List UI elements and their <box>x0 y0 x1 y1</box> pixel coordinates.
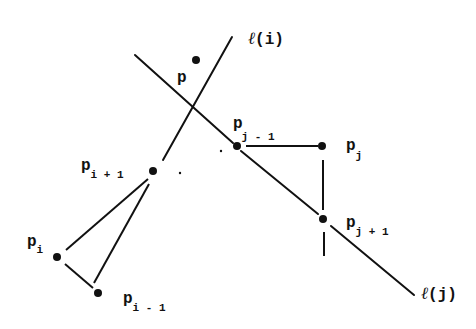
label-l-i: ℓ(i) <box>248 28 284 49</box>
label-pi-minus-1: pi - 1 <box>123 290 166 314</box>
point-p <box>192 56 200 64</box>
point-pi-plus-1 <box>149 167 157 175</box>
line-l-i <box>163 37 232 160</box>
point-pj-plus-1 <box>319 215 327 223</box>
label-pj-minus-1: pj - 1 <box>233 115 275 143</box>
stray-dot <box>220 150 222 152</box>
label-p: p <box>177 69 187 87</box>
point-pj <box>318 142 326 150</box>
label-pi: pi <box>27 233 44 256</box>
label-pj: pj <box>346 137 362 162</box>
stray-dot <box>179 172 181 174</box>
label-l-j: ℓ(j) <box>421 283 457 304</box>
point-pj-minus-1 <box>233 142 241 150</box>
point-pi-minus-1 <box>94 289 102 297</box>
triangle-pi <box>65 179 149 288</box>
point-pi <box>53 253 61 261</box>
geometry-diagram: ℓ(i) ℓ(j) p pj - 1 pj pj + 1 pi + 1 pi p… <box>0 0 476 329</box>
label-pi-plus-1: pi + 1 <box>81 157 124 181</box>
line-l-j <box>135 55 414 295</box>
label-pj-plus-1: pj + 1 <box>346 214 389 238</box>
edge-pj-to-pj-plus-1 <box>323 160 324 256</box>
